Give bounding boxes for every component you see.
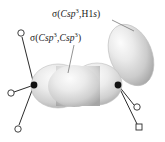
orbital-sigma-cc (31, 63, 122, 108)
hydrogen-left-icon (8, 90, 14, 96)
hydrogen-upper-left-icon (18, 30, 24, 36)
orbital-diagram-figure: σ(Csp3,H1s) σ(Csp3,Csp3) (0, 0, 165, 142)
label-sigma-csp3-h1s-sp: sp (67, 9, 76, 19)
label-sigma-csp3-csp3: σ(Csp3,Csp3) (30, 34, 81, 44)
hydrogen-lower-right-upper-icon (134, 104, 140, 110)
label-sigma-csp3-h1s-sigma: σ( (52, 9, 61, 19)
label-sigma-csp3-h1s-close: ) (97, 9, 100, 19)
carbon-left-atom (31, 82, 38, 89)
label-sigma-csp3-csp3-sp2: sp (66, 33, 75, 43)
label-sigma-csp3-csp3-close: ) (78, 33, 81, 43)
label-sigma-csp3-csp3-sp1: sp (45, 33, 54, 43)
hydrogen-lower-left-icon (15, 126, 21, 132)
carbon-right-atom (115, 82, 122, 89)
bond-group-left (14, 37, 34, 125)
diagram-canvas (0, 0, 165, 142)
label-sigma-csp3-h1s-comma-h1: ,H1 (79, 9, 93, 19)
bond-left-upper (22, 37, 34, 85)
hydrogen-lower-right-lower-icon (136, 124, 142, 130)
label-sigma-csp3-h1s: σ(Csp3,H1s) (52, 10, 100, 20)
label-sigma-csp3-csp3-sigma: σ( (30, 33, 39, 43)
